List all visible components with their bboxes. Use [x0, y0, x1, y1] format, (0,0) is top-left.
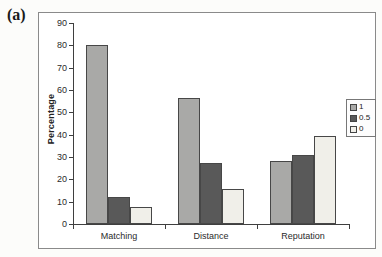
- figure-panel-a: (a) Percentage 0102030405060708090Matchi…: [0, 0, 382, 257]
- legend-marker-icon: [350, 126, 357, 133]
- x-tick: [73, 225, 74, 229]
- bar-distance-series-1: [178, 98, 200, 224]
- y-tick: [69, 112, 73, 113]
- x-tick: [165, 225, 166, 229]
- chart-frame: Percentage 0102030405060708090MatchingDi…: [38, 12, 376, 249]
- bar-distance-series-0.5: [200, 163, 222, 224]
- y-tick: [69, 23, 73, 24]
- y-tick: [69, 68, 73, 69]
- y-axis-line: [73, 23, 74, 225]
- x-tick: [349, 225, 350, 229]
- legend-label: 0: [359, 125, 363, 133]
- y-tick: [69, 157, 73, 158]
- bar-matching-series-0: [130, 207, 152, 224]
- x-category-label: Reputation: [257, 231, 349, 241]
- bar-distance-series-0: [222, 189, 244, 224]
- y-tick-label: 60: [45, 85, 67, 95]
- bar-reputation-series-1: [270, 161, 292, 224]
- bar-reputation-series-0: [314, 136, 336, 224]
- y-tick: [69, 202, 73, 203]
- y-tick-label: 0: [45, 219, 67, 229]
- bar-matching-series-0.5: [108, 197, 130, 224]
- y-tick-label: 30: [45, 152, 67, 162]
- y-tick: [69, 179, 73, 180]
- y-tick: [69, 135, 73, 136]
- legend-label: 0.5: [359, 114, 370, 122]
- x-axis-line: [73, 224, 350, 225]
- bar-matching-series-1: [86, 45, 108, 224]
- x-category-label: Matching: [73, 231, 165, 241]
- legend-marker-icon: [350, 104, 357, 111]
- y-tick-label: 80: [45, 40, 67, 50]
- y-tick-label: 90: [45, 18, 67, 28]
- y-tick-label: 50: [45, 107, 67, 117]
- panel-label: (a): [7, 6, 26, 24]
- bar-reputation-series-0.5: [292, 155, 314, 224]
- legend-marker-icon: [350, 115, 357, 122]
- x-tick: [257, 225, 258, 229]
- y-tick-label: 70: [45, 63, 67, 73]
- legend-entry-0: 0: [350, 125, 373, 133]
- y-tick-label: 40: [45, 130, 67, 140]
- y-tick-label: 20: [45, 174, 67, 184]
- y-tick: [69, 90, 73, 91]
- y-tick-label: 10: [45, 197, 67, 207]
- legend: 10.50: [346, 99, 376, 137]
- legend-entry-1: 1: [350, 103, 373, 111]
- x-category-label: Distance: [165, 231, 257, 241]
- y-tick: [69, 45, 73, 46]
- legend-entry-0.5: 0.5: [350, 114, 373, 122]
- legend-label: 1: [359, 103, 363, 111]
